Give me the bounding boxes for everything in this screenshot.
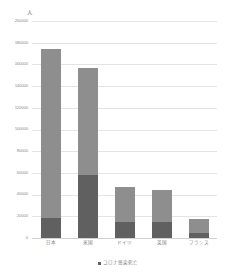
x-axis-tick-label: 日本 [32,241,69,246]
y-axis-tick-label: 0 [26,236,28,240]
gridline [32,238,217,239]
x-axis-tick-label: ドイツ [106,241,143,246]
bar-segment-deaths [78,175,98,238]
y-axis: 2000001800001600001400001200001000008000… [0,21,30,238]
bar-group [41,49,61,238]
y-axis-tick-label: 20000 [17,214,28,218]
bar-group [189,219,209,238]
bar-segment-other [78,68,98,175]
y-axis-tick-label: 120000 [15,106,28,110]
bar-segment-other [152,190,172,221]
y-axis-tick-label: 200000 [15,19,28,23]
y-axis-tick-label: 80000 [17,149,28,153]
bar-segment-deaths [152,222,172,238]
y-axis-tick-label: 60000 [17,171,28,175]
legend-swatch-icon [98,262,102,266]
y-axis-tick-label: 180000 [15,41,28,45]
bars-layer [32,21,217,238]
y-axis-unit-label: 人 [27,11,33,17]
bar-segment-other [41,49,61,218]
bar-group [115,187,135,238]
y-axis-tick-label: 40000 [17,192,28,196]
x-axis-tick-label: 米国 [69,241,106,246]
y-axis-tick-label: 100000 [15,127,28,131]
bar-segment-deaths [115,222,135,238]
bar-group [152,190,172,238]
bar-segment-other [115,187,135,222]
bar-segment-deaths [41,218,61,238]
bar-chart: 人 20000018000016000014000012000010000080… [0,0,235,277]
bar-segment-deaths [189,233,209,238]
x-axis-tick-label: フランス [180,241,217,246]
y-axis-tick-label: 160000 [15,62,28,66]
y-axis-tick-label: 140000 [15,84,28,88]
bar-segment-other [189,219,209,233]
bar-group [78,68,98,238]
chart-legend: コロナ感染死亡 [0,261,235,266]
x-axis-tick-label: 英国 [143,241,180,246]
legend-label: コロナ感染死亡 [103,261,138,266]
x-axis: 日本米国ドイツ英国フランス [32,241,217,253]
